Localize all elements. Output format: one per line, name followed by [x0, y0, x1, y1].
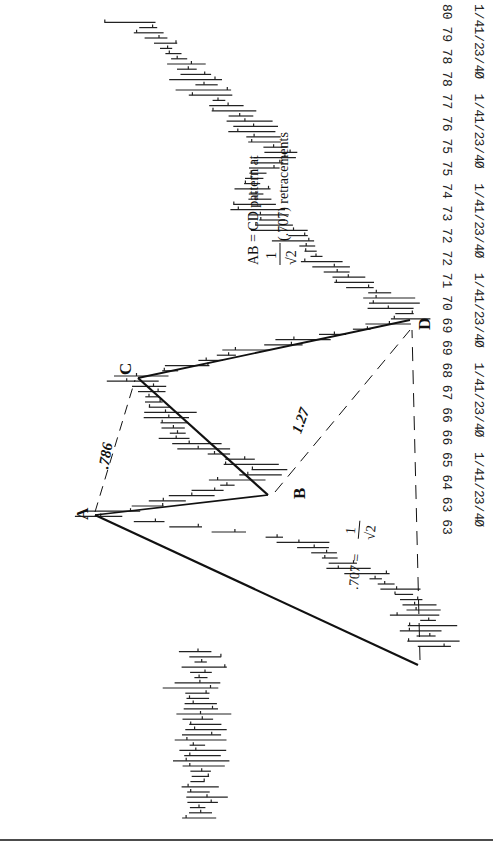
- price-tick: 771/4: [439, 94, 486, 118]
- price-tick: 783/4: [439, 49, 486, 73]
- svg-text:Ø: Ø: [471, 430, 486, 438]
- price-tick: 78Ø: [439, 71, 486, 87]
- point-d-label: D: [415, 318, 434, 330]
- svg-text:3/4: 3/4: [471, 497, 486, 521]
- point-a-label: A: [73, 507, 92, 520]
- svg-text:67: 67: [439, 385, 454, 401]
- svg-text:73: 73: [439, 206, 454, 222]
- svg-text:√2: √2: [284, 250, 299, 265]
- svg-text:78: 78: [439, 49, 454, 65]
- svg-text:1/2: 1/2: [471, 385, 486, 408]
- svg-text:1/4: 1/4: [471, 4, 486, 28]
- svg-text:72: 72: [439, 250, 454, 266]
- price-tick: 731/2: [439, 206, 486, 229]
- cd-leg: [138, 320, 410, 378]
- price-tick: 681/4: [439, 362, 486, 386]
- price-tick: 723/4: [439, 228, 486, 252]
- svg-text:1/2: 1/2: [471, 116, 486, 139]
- price-tick: 63Ø: [439, 519, 486, 535]
- price-tick: 693/4: [439, 318, 486, 342]
- bc-leg: [138, 378, 268, 495]
- price-tick: 66Ø: [439, 430, 486, 446]
- price-bars: [75, 19, 460, 818]
- svg-text:1/2: 1/2: [471, 295, 486, 318]
- svg-text:Ø: Ø: [471, 340, 486, 348]
- ratio-bd: 1.27: [288, 405, 312, 436]
- svg-text:3/4: 3/4: [471, 49, 486, 73]
- svg-text:1/4: 1/4: [471, 452, 486, 476]
- price-tick: 72Ø: [439, 250, 486, 266]
- svg-text:1/4: 1/4: [471, 183, 486, 207]
- pattern-lines: [95, 320, 420, 665]
- harmonic-pattern-chart: 801/4791/2783/478Ø771/4761/2753/475Ø741/…: [0, 0, 493, 859]
- svg-text:3/4: 3/4: [471, 318, 486, 342]
- price-tick: 791/2: [439, 26, 486, 49]
- svg-text:79: 79: [439, 26, 454, 42]
- svg-text:68: 68: [439, 362, 454, 378]
- svg-text:74: 74: [439, 183, 454, 199]
- point-c-label: C: [116, 363, 135, 375]
- point-b-label: B: [290, 488, 309, 499]
- svg-text:3/4: 3/4: [471, 228, 486, 252]
- svg-text:1/2: 1/2: [471, 206, 486, 229]
- svg-text:78: 78: [439, 71, 454, 87]
- price-axis: 801/4791/2783/478Ø771/4761/2753/475Ø741/…: [439, 4, 486, 535]
- ratio-xd: .707 = 1 √2: [338, 519, 379, 591]
- svg-text:76: 76: [439, 116, 454, 132]
- svg-text:66: 66: [439, 430, 454, 446]
- svg-text:1/4: 1/4: [471, 362, 486, 386]
- svg-text:69: 69: [439, 340, 454, 356]
- svg-text:3/4: 3/4: [471, 407, 486, 431]
- price-tick: 801/4: [439, 4, 486, 28]
- price-tick: 633/4: [439, 497, 486, 521]
- price-tick: 761/2: [439, 116, 486, 139]
- svg-text:63: 63: [439, 497, 454, 513]
- price-tick: 663/4: [439, 407, 486, 431]
- price-tick: 753/4: [439, 138, 486, 162]
- svg-text:1/2: 1/2: [471, 26, 486, 49]
- price-tick: 741/4: [439, 183, 486, 207]
- svg-text:√2: √2: [362, 524, 378, 540]
- price-tick: 711/4: [439, 273, 486, 297]
- svg-text:1/2: 1/2: [471, 474, 486, 497]
- svg-text:77: 77: [439, 94, 454, 110]
- svg-text:63: 63: [439, 519, 454, 535]
- price-tick: 701/2: [439, 295, 486, 318]
- svg-text:Ø: Ø: [471, 250, 486, 258]
- price-tick: 671/2: [439, 385, 486, 408]
- svg-text:65: 65: [439, 452, 454, 468]
- svg-text:1/4: 1/4: [471, 94, 486, 118]
- svg-text:75: 75: [439, 161, 454, 177]
- price-tick: 651/4: [439, 452, 486, 476]
- svg-text:80: 80: [439, 4, 454, 20]
- svg-text:(.707) retracements: (.707) retracements: [276, 132, 292, 241]
- ratio-ac: .786: [95, 441, 115, 470]
- price-tick: 75Ø: [439, 161, 486, 177]
- svg-text:1/4: 1/4: [471, 273, 486, 297]
- svg-text:.707 =: .707 =: [346, 553, 364, 590]
- ab-leg: [95, 495, 268, 515]
- svg-text:75: 75: [439, 138, 454, 154]
- price-tick: 641/2: [439, 474, 486, 497]
- svg-text:Ø: Ø: [471, 161, 486, 169]
- price-tick: 69Ø: [439, 340, 486, 356]
- svg-text:72: 72: [439, 228, 454, 244]
- svg-text:71: 71: [439, 273, 454, 289]
- svg-text:Ø: Ø: [471, 71, 486, 79]
- svg-text:3/4: 3/4: [471, 138, 486, 162]
- svg-text:70: 70: [439, 295, 454, 311]
- svg-text:64: 64: [439, 474, 454, 490]
- svg-text:AB = CD pattern at: AB = CD pattern at: [246, 155, 261, 265]
- svg-text:1: 1: [343, 526, 359, 534]
- svg-text:Ø: Ø: [471, 519, 486, 527]
- svg-text:69: 69: [439, 318, 454, 334]
- svg-text:66: 66: [439, 407, 454, 423]
- svg-text:1: 1: [264, 252, 279, 259]
